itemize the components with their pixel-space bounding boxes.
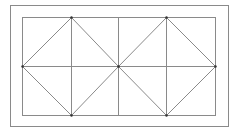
vertex-dot [165,114,167,116]
vertex-dot [117,65,119,67]
geometry-diagram [0,0,238,129]
vertex-dot [70,114,72,116]
vertex-dot [21,65,23,67]
vertex-dot [214,65,216,67]
vertex-dot [70,16,72,18]
vertex-dot [165,16,167,18]
